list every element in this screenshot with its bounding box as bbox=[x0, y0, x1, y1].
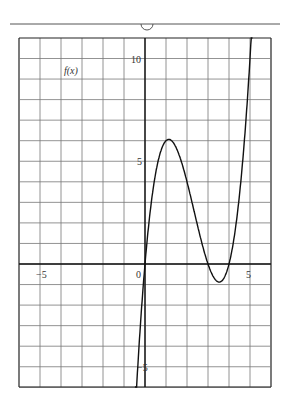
x-tick-label: 5 bbox=[246, 269, 251, 280]
function-label: f(x) bbox=[64, 65, 79, 77]
function-graph: −505105−5 f(x) bbox=[0, 0, 285, 407]
x-tick-label: 0 bbox=[136, 269, 141, 280]
tick-labels: −505105−5 bbox=[36, 54, 251, 373]
function-curve bbox=[135, 38, 253, 387]
y-tick-label: 10 bbox=[131, 54, 141, 65]
top-marker-icon bbox=[141, 24, 153, 30]
y-tick-label: 5 bbox=[137, 156, 142, 167]
axes bbox=[19, 38, 271, 387]
x-tick-label: −5 bbox=[36, 269, 47, 280]
